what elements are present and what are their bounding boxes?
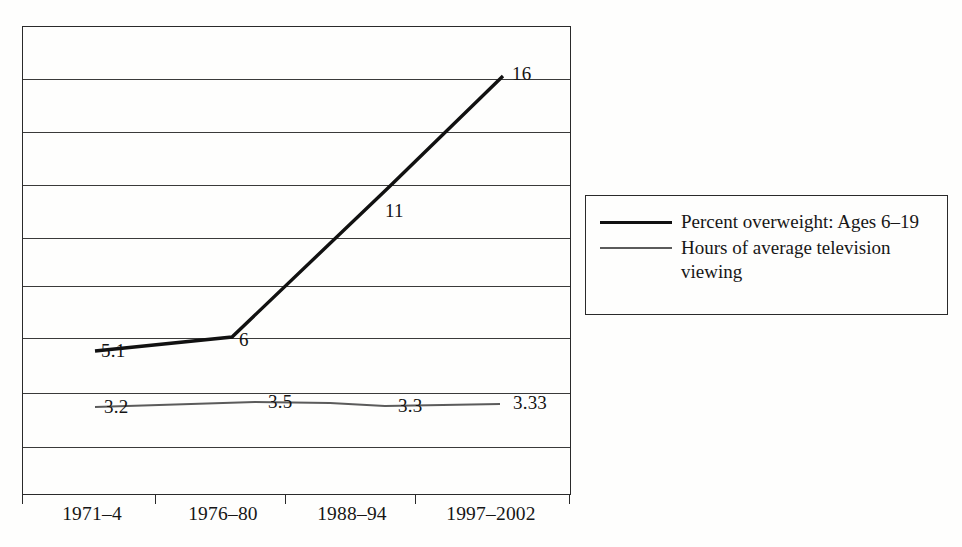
plot-area — [22, 26, 571, 495]
data-label-television-2: 3.5 — [268, 391, 292, 413]
legend-label-television: Hours of average television viewing — [681, 236, 933, 284]
legend-swatch-television-icon — [600, 247, 672, 249]
gridline — [23, 447, 570, 448]
legend: Percent overweight: Ages 6–19 Hours of a… — [585, 195, 948, 315]
chart-figure: 1971–4 1976–80 1988–94 1997–2002 5.1 6 1… — [0, 0, 962, 547]
gridline — [23, 286, 570, 287]
data-label-television-1: 3.2 — [104, 396, 128, 418]
x-axis-tick — [569, 494, 570, 504]
gridline — [23, 393, 570, 394]
x-axis-label-4: 1997–2002 — [414, 503, 568, 525]
legend-label-overweight: Percent overweight: Ages 6–19 — [681, 210, 919, 234]
data-label-overweight-4: 16 — [512, 63, 531, 85]
gridline — [23, 338, 570, 339]
gridline — [23, 132, 570, 133]
x-axis-tick — [155, 494, 156, 504]
gridline — [23, 238, 570, 239]
data-label-overweight-2: 6 — [239, 329, 249, 351]
x-axis-tick — [285, 494, 286, 504]
x-axis-line — [22, 494, 571, 495]
legend-swatch-overweight-icon — [600, 221, 672, 224]
x-axis-label-2: 1976–80 — [164, 503, 282, 525]
legend-item-overweight[interactable]: Percent overweight: Ages 6–19 — [600, 210, 937, 234]
data-label-overweight-1: 5.1 — [101, 340, 125, 362]
legend-item-television[interactable]: Hours of average television viewing — [600, 236, 937, 284]
data-label-television-4: 3.33 — [513, 392, 547, 414]
gridline — [23, 79, 570, 80]
data-label-television-3: 3.3 — [398, 395, 422, 417]
x-axis-label-3: 1988–94 — [294, 503, 410, 525]
data-label-overweight-3: 11 — [385, 200, 404, 222]
x-axis-tick — [22, 494, 23, 504]
x-axis-label-1: 1971–4 — [36, 503, 148, 525]
gridline — [23, 185, 570, 186]
